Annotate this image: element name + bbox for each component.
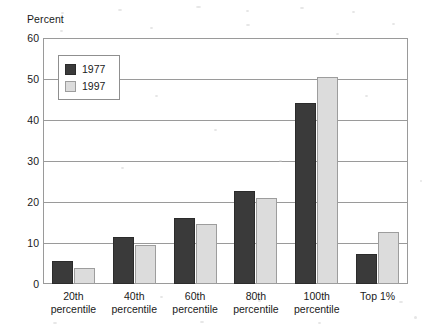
y-axis-title: Percent xyxy=(27,13,64,25)
legend: 1977 1997 xyxy=(58,55,120,100)
scan-speckle xyxy=(352,11,355,13)
x-axis-label-line: percentile xyxy=(277,303,357,316)
bar-chart: Percent 0102030405060 20thpercentile40th… xyxy=(0,0,428,332)
bar-1977-20th-percentile xyxy=(52,261,73,284)
scan-speckle xyxy=(200,321,204,323)
scan-speckle xyxy=(246,10,249,12)
bar-1977-top-1- xyxy=(356,254,377,284)
y-axis-tick-label: 10 xyxy=(27,238,39,249)
bar-1977-60th-percentile xyxy=(174,218,195,284)
scan-speckle xyxy=(420,180,422,182)
x-axis-label-line: Top 1% xyxy=(338,290,418,303)
bar-1977-80th-percentile xyxy=(234,191,255,284)
scan-speckle xyxy=(300,7,304,9)
bar-1997-80th-percentile xyxy=(256,198,277,284)
y-axis-tick-label: 30 xyxy=(27,156,39,167)
scan-speckle xyxy=(150,27,153,29)
scan-speckle xyxy=(118,9,122,11)
legend-item-1997: 1997 xyxy=(65,78,119,95)
y-axis-tick-label: 60 xyxy=(27,33,39,44)
bar-1977-100th-percentile xyxy=(295,103,316,284)
scan-speckle xyxy=(392,23,395,25)
scan-speckle xyxy=(336,33,339,35)
legend-item-1977: 1977 xyxy=(65,61,119,78)
legend-swatch-icon-1997 xyxy=(65,81,76,92)
bar-1997-top-1- xyxy=(378,232,399,284)
bar-1997-40th-percentile xyxy=(135,245,156,284)
y-axis-tick-label: 40 xyxy=(27,115,39,126)
y-axis-tick-label: 20 xyxy=(27,197,39,208)
y-axis-tick-label: 0 xyxy=(33,279,39,290)
legend-label-1997: 1997 xyxy=(82,81,105,92)
scan-speckle xyxy=(196,6,201,8)
scan-speckle xyxy=(53,322,57,324)
x-axis-category-label: Top 1% xyxy=(338,290,418,303)
legend-label-1977: 1977 xyxy=(82,64,105,75)
scan-speckle xyxy=(414,316,417,319)
bar-1997-100th-percentile xyxy=(317,77,338,284)
legend-swatch-icon-1977 xyxy=(65,64,76,75)
y-axis-tick-label: 50 xyxy=(27,74,39,85)
bar-1997-20th-percentile xyxy=(74,268,95,284)
scan-speckle xyxy=(246,24,250,26)
scan-speckle xyxy=(60,30,63,32)
bar-1997-60th-percentile xyxy=(196,224,217,284)
scan-speckle xyxy=(318,322,321,324)
bar-1977-40th-percentile xyxy=(113,237,134,284)
